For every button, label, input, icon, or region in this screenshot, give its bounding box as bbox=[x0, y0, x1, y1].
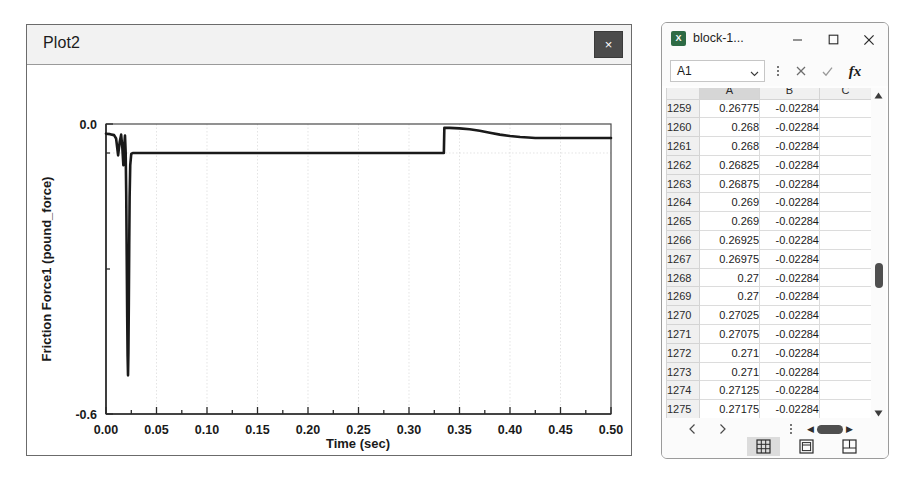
cell-A1275[interactable]: 0.27175 bbox=[700, 400, 760, 419]
vertical-scrollbar-thumb[interactable] bbox=[875, 263, 883, 288]
table-row[interactable]: 12720.271-0.02284 bbox=[667, 343, 872, 362]
normal-view-icon[interactable] bbox=[747, 437, 780, 456]
row-header[interactable]: 1263 bbox=[667, 174, 700, 193]
cell-A1271[interactable]: 0.27075 bbox=[700, 325, 760, 344]
chevron-left-icon[interactable] bbox=[682, 420, 702, 438]
cell-B1262[interactable]: -0.02284 bbox=[760, 155, 820, 174]
table-row[interactable]: 12750.27175-0.02284 bbox=[667, 400, 872, 419]
cell-B1275[interactable]: -0.02284 bbox=[760, 400, 820, 419]
cell-B1261[interactable]: -0.02284 bbox=[760, 137, 820, 156]
row-header[interactable]: 1266 bbox=[667, 231, 700, 250]
cell-A1270[interactable]: 0.27025 bbox=[700, 306, 760, 325]
table-row[interactable]: 12740.27125-0.02284 bbox=[667, 381, 872, 400]
column-header-a[interactable]: A bbox=[700, 88, 760, 99]
cell-B1268[interactable]: -0.02284 bbox=[760, 268, 820, 287]
table-row[interactable]: 12700.27025-0.02284 bbox=[667, 306, 872, 325]
cell-B1266[interactable]: -0.02284 bbox=[760, 231, 820, 250]
cell-B1259[interactable]: -0.02284 bbox=[760, 99, 820, 118]
row-header[interactable]: 1260 bbox=[667, 118, 700, 137]
table-row[interactable]: 12650.269-0.02284 bbox=[667, 212, 872, 231]
cell-C1268[interactable] bbox=[820, 268, 872, 287]
cell-A1265[interactable]: 0.269 bbox=[700, 212, 760, 231]
cell-C1266[interactable] bbox=[820, 231, 872, 250]
check-icon[interactable] bbox=[816, 60, 838, 82]
row-header[interactable]: 1274 bbox=[667, 381, 700, 400]
cell-C1275[interactable] bbox=[820, 400, 872, 419]
table-row[interactable]: 12620.26825-0.02284 bbox=[667, 155, 872, 174]
cell-B1272[interactable]: -0.02284 bbox=[760, 343, 820, 362]
cell-B1274[interactable]: -0.02284 bbox=[760, 381, 820, 400]
cell-A1260[interactable]: 0.268 bbox=[700, 118, 760, 137]
cell-A1263[interactable]: 0.26875 bbox=[700, 174, 760, 193]
row-header[interactable]: 1267 bbox=[667, 249, 700, 268]
page-break-view-icon[interactable] bbox=[833, 437, 866, 456]
more-vertical-icon[interactable] bbox=[772, 62, 784, 80]
cell-A1261[interactable]: 0.268 bbox=[700, 137, 760, 156]
cell-C1270[interactable] bbox=[820, 306, 872, 325]
cell-C1262[interactable] bbox=[820, 155, 872, 174]
cell-C1261[interactable] bbox=[820, 137, 872, 156]
cell-B1269[interactable]: -0.02284 bbox=[760, 287, 820, 306]
chevron-down-icon[interactable] bbox=[749, 65, 760, 83]
cell-C1267[interactable] bbox=[820, 249, 872, 268]
cell-C1264[interactable] bbox=[820, 193, 872, 212]
spreadsheet-grid[interactable]: A B C 12590.26775-0.0228412600.268-0.022… bbox=[666, 88, 886, 420]
table-row[interactable]: 12660.26925-0.02284 bbox=[667, 231, 872, 250]
row-header[interactable]: 1259 bbox=[667, 99, 700, 118]
table-row[interactable]: 12670.26975-0.02284 bbox=[667, 249, 872, 268]
cell-B1260[interactable]: -0.02284 bbox=[760, 118, 820, 137]
column-header-c[interactable]: C bbox=[820, 88, 872, 99]
row-header[interactable]: 1270 bbox=[667, 306, 700, 325]
scroll-right-icon[interactable]: ▶ bbox=[846, 425, 853, 434]
cell-C1271[interactable] bbox=[820, 325, 872, 344]
table-row[interactable]: 12610.268-0.02284 bbox=[667, 137, 872, 156]
cell-C1273[interactable] bbox=[820, 362, 872, 381]
cell-B1265[interactable]: -0.02284 bbox=[760, 212, 820, 231]
row-header[interactable]: 1275 bbox=[667, 400, 700, 419]
row-header[interactable]: 1261 bbox=[667, 137, 700, 156]
cell-B1273[interactable]: -0.02284 bbox=[760, 362, 820, 381]
chevron-right-icon[interactable] bbox=[712, 420, 732, 438]
name-box[interactable]: A1 bbox=[670, 60, 765, 82]
cell-A1266[interactable]: 0.26925 bbox=[700, 231, 760, 250]
table-row[interactable]: 12590.26775-0.02284 bbox=[667, 99, 872, 118]
cell-B1263[interactable]: -0.02284 bbox=[760, 174, 820, 193]
row-header[interactable]: 1273 bbox=[667, 362, 700, 381]
cell-A1259[interactable]: 0.26775 bbox=[700, 99, 760, 118]
cell-A1264[interactable]: 0.269 bbox=[700, 193, 760, 212]
cell-B1271[interactable]: -0.02284 bbox=[760, 325, 820, 344]
minimize-icon[interactable] bbox=[784, 28, 810, 51]
cell-C1259[interactable] bbox=[820, 99, 872, 118]
row-header[interactable]: 1269 bbox=[667, 287, 700, 306]
cell-C1263[interactable] bbox=[820, 174, 872, 193]
cell-B1264[interactable]: -0.02284 bbox=[760, 193, 820, 212]
function-icon[interactable]: fx bbox=[844, 60, 866, 82]
table-row[interactable]: 12640.269-0.02284 bbox=[667, 193, 872, 212]
row-header[interactable]: 1271 bbox=[667, 325, 700, 344]
row-header[interactable]: 1268 bbox=[667, 268, 700, 287]
cell-A1262[interactable]: 0.26825 bbox=[700, 155, 760, 174]
cell-A1269[interactable]: 0.27 bbox=[700, 287, 760, 306]
row-header[interactable]: 1264 bbox=[667, 193, 700, 212]
cell-B1267[interactable]: -0.02284 bbox=[760, 249, 820, 268]
more-vertical-icon[interactable] bbox=[785, 421, 797, 437]
cell-A1273[interactable]: 0.271 bbox=[700, 362, 760, 381]
table-row[interactable]: 12690.27-0.02284 bbox=[667, 287, 872, 306]
cell-A1272[interactable]: 0.271 bbox=[700, 343, 760, 362]
select-all-corner[interactable] bbox=[667, 88, 700, 99]
column-header-b[interactable]: B bbox=[760, 88, 820, 99]
cell-A1267[interactable]: 0.26975 bbox=[700, 249, 760, 268]
cancel-icon[interactable] bbox=[790, 60, 812, 82]
table-row[interactable]: 12730.271-0.02284 bbox=[667, 362, 872, 381]
cell-C1265[interactable] bbox=[820, 212, 872, 231]
vertical-scrollbar[interactable] bbox=[871, 88, 886, 420]
table-row[interactable]: 12710.27075-0.02284 bbox=[667, 325, 872, 344]
horizontal-scrollbar-thumb[interactable] bbox=[817, 425, 843, 434]
cell-A1268[interactable]: 0.27 bbox=[700, 268, 760, 287]
row-header[interactable]: 1272 bbox=[667, 343, 700, 362]
cell-C1269[interactable] bbox=[820, 287, 872, 306]
row-header[interactable]: 1262 bbox=[667, 155, 700, 174]
horizontal-scrollbar[interactable]: ◀ ▶ bbox=[807, 421, 867, 437]
cell-C1260[interactable] bbox=[820, 118, 872, 137]
table-row[interactable]: 12680.27-0.02284 bbox=[667, 268, 872, 287]
